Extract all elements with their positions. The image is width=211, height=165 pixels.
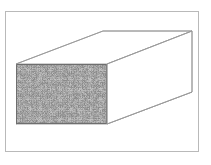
figure-canvas [0,0,211,165]
rectangular-prism [0,0,211,165]
prism-front-face [16,64,107,124]
